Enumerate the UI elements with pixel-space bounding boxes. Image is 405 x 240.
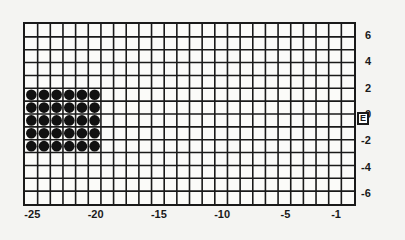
dot-grid [23, 22, 356, 206]
y-tick-label: -2 [361, 134, 371, 146]
y-tick-label: 2 [365, 82, 371, 94]
y-tick-label: 6 [365, 29, 371, 41]
grid-dot [39, 102, 50, 113]
grid-dot [89, 141, 100, 152]
grid-dot [26, 141, 37, 152]
grid-dot [51, 128, 62, 139]
grid-dot [26, 89, 37, 100]
grid-dot [26, 102, 37, 113]
grid-dot [77, 115, 88, 126]
grid-dot [89, 102, 100, 113]
y-tick-label: -6 [361, 187, 371, 199]
grid-dot [51, 115, 62, 126]
x-tick-label: -25 [24, 208, 40, 220]
grid-dot [89, 128, 100, 139]
grid-dot [77, 102, 88, 113]
grid-dot [26, 115, 37, 126]
grid-dot [89, 89, 100, 100]
grid-dot [51, 89, 62, 100]
grid-dot [77, 89, 88, 100]
grid-lines [25, 24, 354, 204]
x-tick-label: -1 [331, 208, 341, 220]
edge-marker-label: E [360, 113, 366, 123]
grid-dot [39, 141, 50, 152]
grid-dot [64, 115, 75, 126]
grid-dot [64, 89, 75, 100]
grid-dot [89, 115, 100, 126]
grid-dot [39, 115, 50, 126]
edge-marker-e: E [357, 112, 369, 125]
grid-dot [64, 141, 75, 152]
grid-dot [64, 102, 75, 113]
x-tick-label: -5 [281, 208, 291, 220]
grid-dot [26, 128, 37, 139]
grid-dot [51, 141, 62, 152]
x-tick-label: -10 [214, 208, 230, 220]
x-tick-label: -20 [88, 208, 104, 220]
y-tick-label: 4 [365, 55, 371, 67]
grid-dot [39, 128, 50, 139]
grid-dot [51, 102, 62, 113]
grid-dot [77, 128, 88, 139]
grid-dot [77, 141, 88, 152]
grid-dot [39, 89, 50, 100]
x-tick-label: -15 [151, 208, 167, 220]
grid-dot [64, 128, 75, 139]
y-tick-label: -4 [361, 161, 371, 173]
